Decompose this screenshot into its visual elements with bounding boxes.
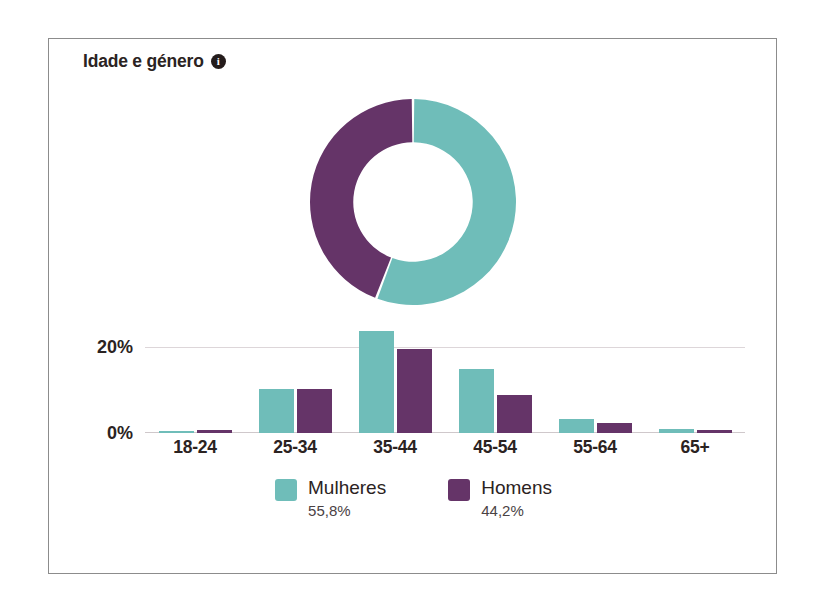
bar-group	[345, 321, 445, 433]
bar-mulheres-55-64[interactable]	[559, 419, 594, 433]
bar-mulheres-25-34[interactable]	[259, 389, 294, 433]
y-axis-tick-label: 0%	[107, 423, 133, 444]
x-axis-label-45-54: 45-54	[445, 437, 545, 458]
info-icon[interactable]: i	[211, 54, 226, 69]
bar-group	[645, 321, 745, 433]
legend-item-mulheres[interactable]: Mulheres55,8%	[275, 477, 386, 519]
legend-swatch-mulheres	[275, 479, 297, 501]
bar-group	[445, 321, 545, 433]
donut-chart	[49, 97, 776, 307]
bar-homens-18-24[interactable]	[197, 430, 232, 433]
x-axis-label-18-24: 18-24	[145, 437, 245, 458]
bar-homens-25-34[interactable]	[297, 389, 332, 433]
bar-homens-55-64[interactable]	[597, 423, 632, 433]
bar-homens-65+[interactable]	[697, 430, 732, 433]
bar-mulheres-35-44[interactable]	[359, 331, 394, 433]
bar-groups	[145, 321, 745, 433]
legend-label: Homens	[481, 477, 552, 499]
bar-mulheres-65+[interactable]	[659, 429, 694, 433]
x-axis-label-35-44: 35-44	[345, 437, 445, 458]
x-axis-label-55-64: 55-64	[545, 437, 645, 458]
age-gender-card: Idade e género i 0%20% 18-2425-3435-4445…	[48, 38, 777, 574]
x-axis-label-25-34: 25-34	[245, 437, 345, 458]
card-header: Idade e género i	[83, 51, 226, 72]
bar-mulheres-45-54[interactable]	[459, 369, 494, 433]
x-axis-label-65+: 65+	[645, 437, 745, 458]
donut-chart-svg	[308, 97, 518, 307]
y-axis-tick-label: 20%	[97, 336, 133, 357]
x-axis-labels: 18-2425-3435-4445-5455-6465+	[145, 437, 745, 458]
chart-legend: Mulheres55,8%Homens44,2%	[49, 477, 778, 519]
legend-value: 55,8%	[308, 502, 386, 519]
bar-group	[245, 321, 345, 433]
donut-slices	[310, 99, 516, 305]
legend-item-homens[interactable]: Homens44,2%	[448, 477, 552, 519]
bar-group	[545, 321, 645, 433]
bar-group	[145, 321, 245, 433]
bar-homens-35-44[interactable]	[397, 349, 432, 433]
legend-swatch-homens	[448, 479, 470, 501]
legend-label: Mulheres	[308, 477, 386, 499]
page-title: Idade e género	[83, 51, 204, 72]
bar-mulheres-18-24[interactable]	[159, 431, 194, 434]
bar-homens-45-54[interactable]	[497, 395, 532, 433]
age-bar-chart: 0%20% 18-2425-3435-4445-5455-6465+	[49, 311, 778, 461]
legend-value: 44,2%	[481, 502, 552, 519]
